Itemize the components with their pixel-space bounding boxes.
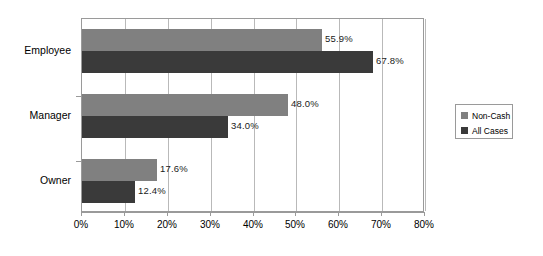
category-label-manager: Manager xyxy=(30,109,71,121)
x-axis-tick xyxy=(424,212,425,216)
x-axis-tick-label: 20% xyxy=(147,219,187,231)
x-axis-tick-label: 60% xyxy=(318,219,358,231)
legend-label-non-cash: Non-Cash xyxy=(472,111,510,121)
gridline xyxy=(382,19,383,211)
x-axis-tick xyxy=(338,212,339,216)
bar-employee-all-cases xyxy=(82,51,373,73)
x-axis-tick-label: 50% xyxy=(275,219,315,231)
category-label-employee: Employee xyxy=(24,44,71,56)
x-axis-tick-label: 70% xyxy=(361,219,401,231)
bar-manager-non-cash xyxy=(82,94,288,116)
x-axis-tick xyxy=(167,212,168,216)
bar-owner-all-cases xyxy=(82,181,135,203)
gridline xyxy=(425,19,426,211)
legend-swatch-all-cases-icon xyxy=(461,127,468,134)
bar-value-label: 34.0% xyxy=(231,121,259,131)
bar-chart: 55.9%67.8%48.0%34.0%17.6%12.4% EmployeeM… xyxy=(0,0,543,256)
y-axis-tick xyxy=(76,96,81,97)
x-axis-tick xyxy=(210,212,211,216)
plot-area xyxy=(81,18,424,212)
x-axis-tick xyxy=(295,212,296,216)
bar-value-label: 17.6% xyxy=(160,164,188,174)
x-axis-tick-label: 30% xyxy=(190,219,230,231)
x-axis-tick xyxy=(81,212,82,216)
category-label-owner: Owner xyxy=(40,174,71,186)
legend-item-all-cases: All Cases xyxy=(461,124,512,137)
y-axis-tick xyxy=(76,161,81,162)
bar-manager-all-cases xyxy=(82,116,228,138)
x-axis-tick-label: 40% xyxy=(233,219,273,231)
x-axis-tick-label: 0% xyxy=(61,219,101,231)
x-axis-tick-label: 10% xyxy=(104,219,144,231)
bar-employee-non-cash xyxy=(82,29,322,51)
gridline xyxy=(339,19,340,211)
bar-owner-non-cash xyxy=(82,159,157,181)
bar-value-label: 67.8% xyxy=(376,56,404,66)
x-axis-tick-label: 80% xyxy=(404,219,444,231)
bar-value-label: 48.0% xyxy=(291,99,319,109)
x-axis-tick xyxy=(253,212,254,216)
bar-value-label: 55.9% xyxy=(325,34,353,44)
legend-label-all-cases: All Cases xyxy=(472,126,508,136)
legend-item-non-cash: Non-Cash xyxy=(461,109,512,122)
legend-swatch-non-cash-icon xyxy=(461,112,468,119)
category-axis-labels: EmployeeManagerOwner xyxy=(0,18,77,212)
x-axis-tick xyxy=(381,212,382,216)
legend: Non-Cash All Cases xyxy=(455,104,513,139)
bar-value-label: 12.4% xyxy=(138,186,166,196)
x-axis-tick xyxy=(124,212,125,216)
